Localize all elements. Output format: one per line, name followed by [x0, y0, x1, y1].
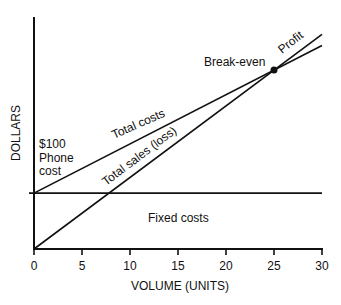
- fixed-level-label-line2: Phone: [39, 151, 74, 165]
- x-tick-label: 0: [31, 259, 38, 273]
- break-even-point: [271, 67, 278, 74]
- profit-label: Profit: [275, 28, 306, 57]
- x-tick-label: 25: [267, 259, 281, 273]
- x-ticks: 051015202530: [31, 249, 329, 273]
- break-even-label: Break-even: [204, 55, 265, 69]
- x-tick-label: 30: [315, 259, 329, 273]
- fixed-level-label-line3: cost: [39, 164, 62, 178]
- x-axis-label: VOLUME (UNITS): [131, 279, 229, 293]
- total-costs-line: [34, 46, 322, 194]
- break-even-chart: 051015202530 DOLLARS VOLUME (UNITS) $100…: [0, 0, 341, 305]
- x-tick-label: 15: [171, 259, 185, 273]
- x-tick-label: 5: [79, 259, 86, 273]
- x-tick-label: 10: [123, 259, 137, 273]
- y-axis-label: DOLLARS: [9, 105, 23, 161]
- fixed-costs-label: Fixed costs: [148, 211, 209, 225]
- fixed-level-label-line1: $100: [39, 137, 66, 151]
- x-tick-label: 20: [219, 259, 233, 273]
